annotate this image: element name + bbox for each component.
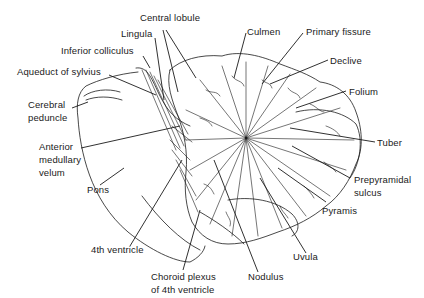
leader-cerebral-peduncle	[72, 102, 88, 108]
label-lingula: Lingula	[121, 28, 152, 41]
leader-central-lobule-b	[166, 30, 196, 78]
leader-inferior-colliculus	[143, 56, 150, 68]
leader-aqueduct	[109, 75, 156, 95]
label-inferior-colliculus: Inferior colliculus	[61, 45, 134, 58]
leader-central-lobule-a	[163, 30, 178, 92]
label-cerebral-peduncle: Cerebral	[28, 99, 65, 112]
leader-4th-ventricle	[130, 160, 182, 246]
label-declive: Declive	[330, 55, 362, 68]
leader-pons	[100, 168, 124, 185]
leader-folium	[296, 91, 346, 108]
label-pons: Pons	[87, 184, 109, 197]
posterior-lobe	[296, 110, 360, 178]
label-aqueduct-of-sylvius: Aqueduct of sylvius	[17, 66, 101, 79]
label-prepyramidal-sulcus: Prepyramidal	[354, 174, 411, 187]
label-anterior-medullary-velum-3: velum	[39, 167, 65, 180]
label-folium: Folium	[349, 86, 378, 99]
leader-anterior-medullary-velum	[81, 126, 180, 148]
cerebellum-diagram: Central lobule Lingula Inferior collicul…	[0, 0, 424, 298]
label-anterior-medullary-velum-2: medullary	[39, 154, 81, 167]
label-choroid-plexus: Choroid plexus	[151, 271, 216, 284]
label-cerebral-peduncle-2: peduncle	[28, 112, 67, 125]
label-primary-fissure: Primary fissure	[306, 26, 371, 39]
cerebral-peduncle-outline	[84, 90, 122, 100]
leader-prepyramidal	[292, 146, 350, 178]
label-culmen: Culmen	[247, 26, 280, 39]
label-choroid-plexus-2: of 4th ventricle	[151, 284, 214, 297]
leader-primary-fissure	[262, 33, 303, 84]
leader-lingula	[155, 38, 164, 100]
leader-culmen	[234, 33, 246, 78]
brainstem-top	[136, 68, 190, 126]
label-tuber: Tuber	[377, 137, 402, 150]
pons-outline	[77, 72, 205, 262]
uvula-lobe	[200, 212, 244, 244]
label-uvula: Uvula	[293, 251, 318, 264]
label-anterior-medullary-velum: Anterior	[39, 141, 73, 154]
label-pyramis: Pyramis	[322, 205, 357, 218]
leader-pyramis	[278, 168, 326, 202]
label-central-lobule: Central lobule	[140, 12, 200, 25]
leader-nodulus	[214, 160, 258, 272]
label-nodulus: Nodulus	[248, 271, 284, 284]
label-prepyramidal-sulcus-2: sulcus	[354, 187, 382, 200]
label-4th-ventricle: 4th ventricle	[91, 244, 144, 257]
leader-uvula	[260, 178, 306, 253]
